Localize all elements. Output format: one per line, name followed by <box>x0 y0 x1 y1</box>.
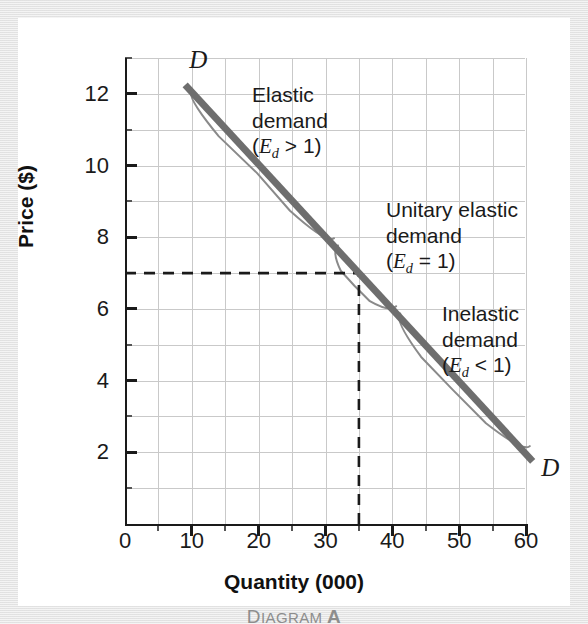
y-tick-label: 6 <box>63 298 109 320</box>
x-tick-label: 30 <box>296 530 356 552</box>
annotation-line: demand <box>442 327 519 353</box>
x-tick-label: 50 <box>429 530 489 552</box>
unitary-elastic-demand-annotation: Unitary elasticdemand(Ed = 1) <box>386 197 518 278</box>
figure-caption: DIAGRAM A <box>18 606 570 624</box>
caption-word: A <box>327 609 341 624</box>
y-tick-label: 8 <box>63 226 109 248</box>
annotation-formula: (Ed > 1) <box>252 133 328 163</box>
y-axis-title: Price ($) <box>14 165 38 248</box>
inelastic-demand-annotation: Inelasticdemand(Ed < 1) <box>442 301 519 382</box>
reference-lines-group <box>125 273 359 524</box>
caption-word: DIAGRAM <box>247 609 323 624</box>
x-tick-label: 10 <box>162 530 222 552</box>
y-tick-label: 12 <box>63 83 109 105</box>
elastic-demand-annotation: Elasticdemand(Ed > 1) <box>252 82 328 163</box>
x-tick-label: 60 <box>496 530 556 552</box>
annotation-line: Inelastic <box>442 301 519 327</box>
page-background: Price ($) DD Elasticdemand(Ed > 1)Unitar… <box>0 0 588 624</box>
annotation-formula: (Ed = 1) <box>386 248 518 278</box>
y-tick-label: 10 <box>63 155 109 177</box>
annotation-line: demand <box>252 108 328 134</box>
annotation-line: Elastic <box>252 82 328 108</box>
y-tick-label: 2 <box>63 441 109 463</box>
annotation-line: Unitary elastic <box>386 197 518 223</box>
y-tick-label: 4 <box>63 370 109 392</box>
x-tick-label: 20 <box>229 530 289 552</box>
x-tick-label: 0 <box>95 530 155 552</box>
demand-curve-label: D <box>189 46 207 74</box>
figure-card: Price ($) DD Elasticdemand(Ed > 1)Unitar… <box>18 18 570 606</box>
x-tick-label: 40 <box>362 530 422 552</box>
demand-curve-label: D <box>541 454 559 482</box>
x-axis-title: Quantity (000) <box>18 570 570 594</box>
annotation-formula: (Ed < 1) <box>442 352 519 382</box>
annotation-line: demand <box>386 223 518 249</box>
